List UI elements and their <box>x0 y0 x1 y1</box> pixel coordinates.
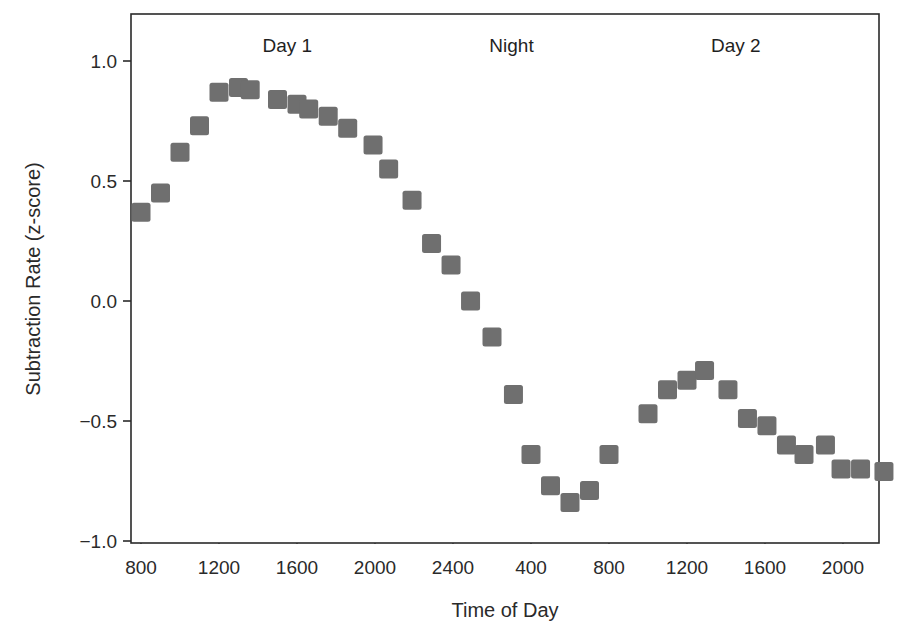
data-point <box>561 493 580 512</box>
data-point <box>442 256 461 275</box>
x-tick-label: 2000 <box>354 557 396 578</box>
x-tick-label: 1200 <box>198 557 240 578</box>
data-point <box>504 385 523 404</box>
x-tick-label: 2000 <box>822 557 864 578</box>
x-tick-label: 1200 <box>666 557 708 578</box>
y-tick-label: −0.5 <box>79 411 117 432</box>
x-tick-label: 400 <box>515 557 547 578</box>
y-tick-label: 0.0 <box>91 291 117 312</box>
data-points <box>132 78 894 512</box>
data-point <box>695 361 714 380</box>
period-annotations: Day 1NightDay 2 <box>262 35 760 56</box>
x-tick-label: 800 <box>125 557 157 578</box>
data-point <box>874 462 893 481</box>
data-point <box>738 409 757 428</box>
y-tick-label: 1.0 <box>91 51 117 72</box>
annotation-day-1: Day 1 <box>262 35 312 56</box>
data-point <box>816 436 835 455</box>
data-point <box>299 100 318 119</box>
data-point <box>541 476 560 495</box>
data-point <box>678 371 697 390</box>
data-point <box>795 445 814 464</box>
y-axis: 1.00.50.0−0.5−1.0 <box>79 51 131 552</box>
data-point <box>319 107 338 126</box>
data-point <box>580 481 599 500</box>
scatter-chart: 1.00.50.0−0.5−1.0 8001200160020002400400… <box>0 0 912 639</box>
x-tick-label: 800 <box>593 557 625 578</box>
x-axis: 8001200160020002400400800120016002000 <box>125 543 864 578</box>
annotation-day-2: Day 2 <box>711 35 761 56</box>
y-tick-label: −1.0 <box>79 531 117 552</box>
data-point <box>190 116 209 135</box>
data-point <box>403 191 422 210</box>
data-point <box>364 136 383 155</box>
data-point <box>832 460 851 479</box>
data-point <box>268 90 287 109</box>
data-point <box>241 80 260 99</box>
data-point <box>132 203 151 222</box>
x-tick-label: 2400 <box>432 557 474 578</box>
y-axis-label: Subtraction Rate (z-score) <box>22 162 44 395</box>
data-point <box>483 328 502 347</box>
annotation-night: Night <box>489 35 534 56</box>
data-point <box>151 184 170 203</box>
data-point <box>757 416 776 435</box>
data-point <box>522 445 541 464</box>
data-point <box>718 380 737 399</box>
data-point <box>600 445 619 464</box>
data-point <box>658 380 677 399</box>
data-point <box>851 460 870 479</box>
data-point <box>422 234 441 253</box>
data-point <box>171 143 190 162</box>
data-point <box>210 83 229 102</box>
x-tick-label: 1600 <box>276 557 318 578</box>
data-point <box>777 436 796 455</box>
data-point <box>639 404 658 423</box>
x-axis-label: Time of Day <box>451 599 558 621</box>
x-tick-label: 1600 <box>744 557 786 578</box>
data-point <box>461 292 480 311</box>
y-tick-label: 0.5 <box>91 171 117 192</box>
data-point <box>379 160 398 179</box>
data-point <box>338 119 357 138</box>
